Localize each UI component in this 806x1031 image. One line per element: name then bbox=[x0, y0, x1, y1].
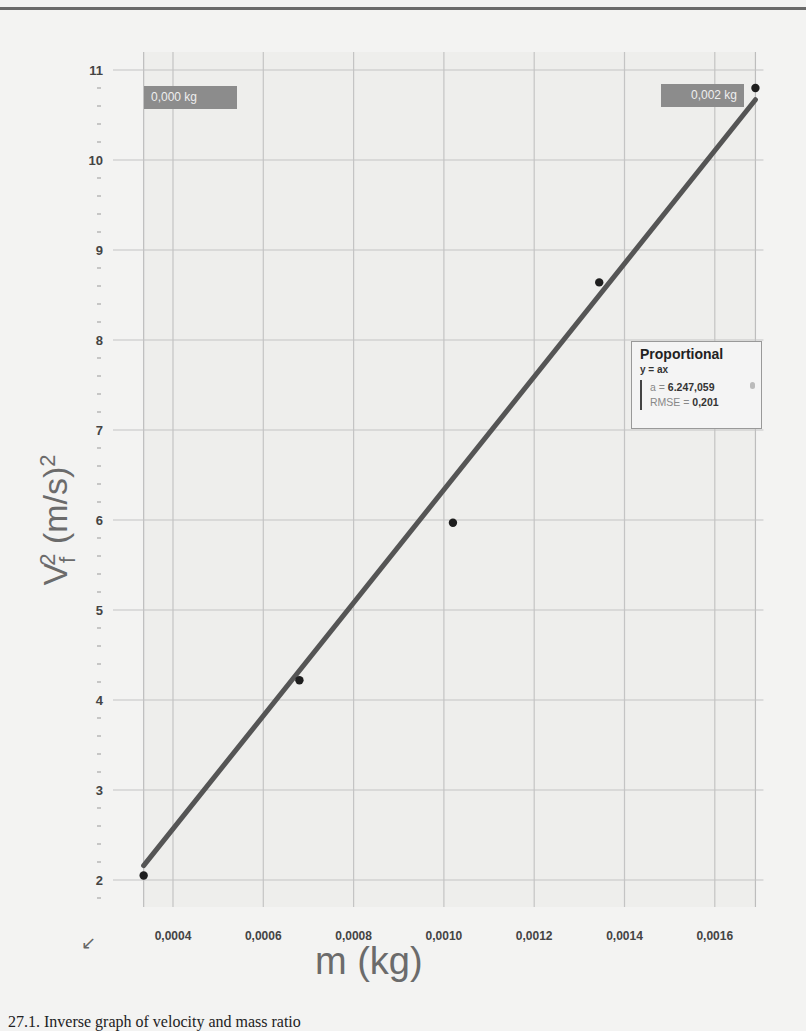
x-tick-label: 0,0010 bbox=[426, 929, 463, 943]
x-tick-label: 0,0014 bbox=[606, 929, 643, 943]
data-point bbox=[139, 871, 147, 879]
fit-legend[interactable]: Proportional y = ax a = 6.247,059 RMSE =… bbox=[631, 341, 762, 429]
fit-equation: y = ax bbox=[640, 364, 753, 375]
data-point bbox=[751, 84, 759, 92]
collapse-arrow-icon[interactable]: ↙ bbox=[81, 932, 96, 954]
x-axis-label: m (kg) bbox=[315, 940, 423, 983]
y-tick-label: 11 bbox=[89, 63, 103, 78]
figure-caption: 27.1. Inverse graph of velocity and mass… bbox=[8, 1013, 301, 1031]
y-tick-label: 6 bbox=[96, 513, 103, 528]
y-axis-label: Vf2 (m/s)2 bbox=[35, 454, 81, 585]
x-tick-label: 0,0004 bbox=[155, 929, 192, 943]
y-tick-label: 3 bbox=[96, 783, 103, 798]
range-tag-left[interactable]: 0,000 kg bbox=[144, 86, 237, 109]
data-point bbox=[449, 519, 457, 527]
x-tick-label: 0,0012 bbox=[516, 929, 553, 943]
fit-params: a = 6.247,059 RMSE = 0,201 bbox=[640, 380, 753, 410]
range-tag-right[interactable]: 0,002 kg bbox=[661, 84, 744, 107]
y-tick-label: 4 bbox=[96, 693, 104, 708]
legend-handle-icon[interactable] bbox=[750, 382, 755, 389]
x-tick-label: 0,0016 bbox=[696, 929, 733, 943]
y-tick-label: 9 bbox=[96, 243, 103, 258]
fit-title: Proportional bbox=[640, 346, 753, 362]
y-tick-label: 10 bbox=[89, 153, 103, 168]
data-point bbox=[295, 676, 303, 684]
x-tick-label: 0,0006 bbox=[245, 929, 282, 943]
y-tick-label: 8 bbox=[96, 333, 103, 348]
y-tick-label: 5 bbox=[96, 603, 103, 618]
y-tick-label: 2 bbox=[96, 873, 103, 888]
data-point bbox=[595, 278, 603, 286]
y-tick-label: 7 bbox=[96, 423, 103, 438]
